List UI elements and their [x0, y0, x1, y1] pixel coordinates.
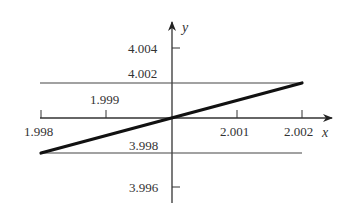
x-tick-label: 1.999 — [90, 92, 119, 107]
x-tick-label: 2.002 — [284, 124, 313, 139]
x-tick-label: 2.001 — [220, 124, 249, 139]
x-tick-label: 1.998 — [24, 124, 53, 139]
y-axis-label: y — [180, 20, 189, 35]
y-tick-label: 3.996 — [129, 180, 159, 195]
chart: 1.998 1.999 2.001 2.002 4.004 4.002 3.99… — [0, 0, 351, 214]
y-tick-label: 4.002 — [128, 66, 157, 81]
y-tick-label: 4.004 — [128, 41, 158, 56]
x-axis-label: x — [321, 125, 329, 140]
y-tick-label: 3.998 — [129, 138, 158, 153]
